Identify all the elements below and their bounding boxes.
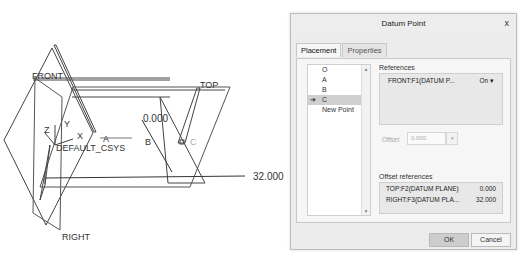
cancel-button[interactable]: Cancel: [471, 233, 511, 247]
right-plane-label[interactable]: RIGHT: [62, 232, 90, 242]
point-c-label[interactable]: C: [190, 137, 197, 147]
reference-row[interactable]: FRONT:F1(DATUM P... On ▾: [380, 74, 502, 88]
point-b-label[interactable]: B: [145, 137, 151, 147]
reference-constraint-dropdown[interactable]: On ▾: [480, 77, 494, 85]
dimension-offset-top[interactable]: 0.000: [143, 113, 168, 124]
csys-label[interactable]: DEFAULT_CSYS: [56, 143, 125, 153]
list-item-label: O: [322, 66, 327, 73]
offset-reference-name: RIGHT:F3(DATUM PLA...: [386, 196, 459, 203]
reference-name: FRONT:F1(DATUM P...: [388, 77, 455, 85]
offset-reference-row[interactable]: TOP:F2(DATUM PLANE) 0.000: [380, 183, 502, 194]
datum-point-dialog: Datum Point x Placement Properties O A B…: [290, 13, 517, 250]
offset-input[interactable]: 0.000: [407, 132, 446, 145]
dialog-tabs: Placement Properties: [296, 43, 388, 57]
current-arrow-icon: ➜: [310, 95, 316, 105]
tab-placement[interactable]: Placement: [296, 43, 341, 57]
close-icon[interactable]: x: [505, 18, 510, 28]
offset-reference-row[interactable]: RIGHT:F3(DATUM PLA... 32.000: [380, 194, 502, 205]
offset-references-collector[interactable]: TOP:F2(DATUM PLANE) 0.000 RIGHT:F3(DATUM…: [379, 182, 503, 214]
axis-x-label: X: [77, 131, 83, 141]
ok-button[interactable]: OK: [429, 233, 469, 247]
list-scrollbar[interactable]: ▲ ▼: [361, 65, 370, 215]
axis-z-label: Z: [44, 125, 50, 135]
top-plane-label[interactable]: TOP: [200, 80, 218, 90]
offset-reference-value[interactable]: 0.000: [480, 185, 496, 192]
dimension-offset-right[interactable]: 32.000: [253, 171, 284, 182]
list-item-label: B: [322, 86, 327, 93]
references-label: References: [379, 64, 415, 71]
point-a-label[interactable]: A: [103, 134, 109, 144]
offset-reference-name: TOP:F2(DATUM PLANE): [386, 185, 459, 192]
dialog-title: Datum Point: [291, 19, 516, 28]
offset-label: Offset: [382, 136, 399, 143]
front-plane-label[interactable]: FRONT: [32, 71, 63, 81]
offset-references-label: Offset references: [379, 173, 433, 180]
offset-reference-value[interactable]: 32.000: [476, 196, 496, 203]
dialog-titlebar[interactable]: Datum Point x: [291, 14, 516, 36]
list-item-label: C: [322, 96, 327, 103]
tab-properties[interactable]: Properties: [342, 43, 386, 57]
references-collector[interactable]: FRONT:F1(DATUM P... On ▾: [379, 73, 503, 125]
offset-dropdown-icon[interactable]: ▾: [446, 132, 458, 145]
scroll-up-icon[interactable]: ▲: [362, 65, 370, 73]
list-item-label: New Point: [322, 106, 354, 113]
axis-y-label: Y: [64, 119, 70, 129]
list-item-label: A: [322, 76, 327, 83]
scroll-down-icon[interactable]: ▼: [362, 207, 370, 215]
placement-panel: O A B ➜C New Point ▲ ▼ References FRONT:…: [296, 58, 511, 223]
points-list[interactable]: O A B ➜C New Point ▲ ▼: [307, 64, 371, 216]
